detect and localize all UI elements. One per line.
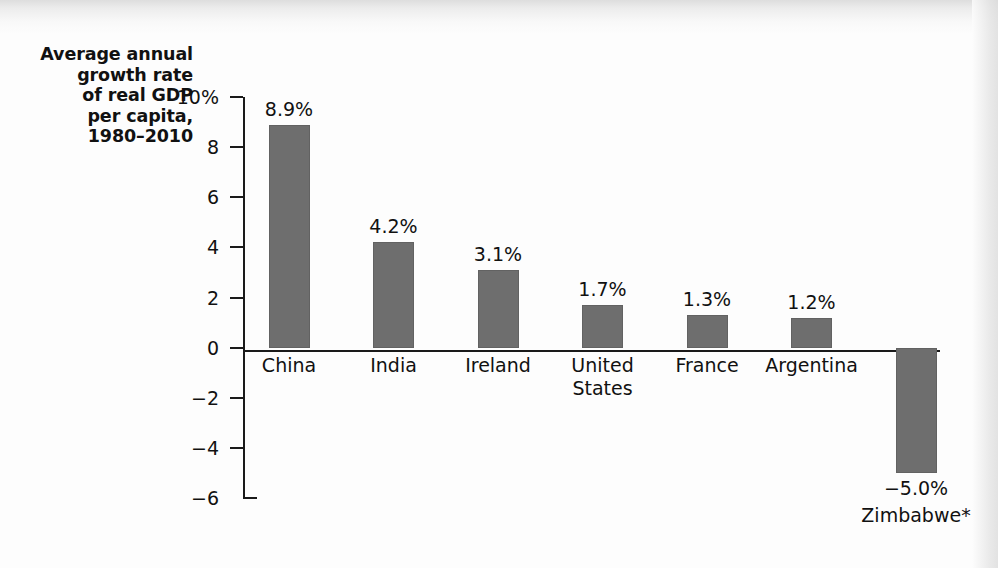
y-axis-tick — [230, 397, 243, 399]
bar-value-label: −5.0% — [856, 477, 976, 499]
bar-category-label: Zimbabwe* — [841, 504, 991, 527]
y-axis-line — [243, 97, 245, 498]
y-axis-title-line-2: growth rate — [8, 65, 193, 86]
bar-category-label-line: Argentina — [737, 354, 887, 377]
y-axis-tick-label: 10% — [149, 86, 219, 108]
plot-area: 10%86420−2−4−68.9%China4.2%India3.1%Irel… — [243, 97, 940, 498]
bar — [582, 305, 623, 348]
bar-category-label-line: Zimbabwe* — [841, 504, 991, 527]
y-axis-title-line-4: per capita, — [8, 106, 193, 127]
bar-value-label: 3.1% — [438, 243, 558, 265]
bar — [791, 318, 832, 348]
page-scan-edge-top — [0, 0, 998, 34]
y-axis-tick-label: 8 — [149, 136, 219, 158]
y-axis-tick-label: 2 — [149, 287, 219, 309]
chart-figure: Average annual growth rate of real GDP p… — [0, 0, 998, 568]
bar — [478, 270, 519, 348]
bar-category-label: Argentina — [737, 354, 887, 377]
y-axis-tick-label: 6 — [149, 186, 219, 208]
zero-baseline — [243, 350, 940, 352]
y-axis-tick — [230, 347, 243, 349]
y-axis-tick — [243, 497, 257, 499]
y-axis-tick-label: 0 — [149, 337, 219, 359]
bar — [687, 315, 728, 348]
bar-value-label: 4.2% — [334, 215, 454, 237]
bar — [373, 242, 414, 347]
y-axis-tick — [230, 196, 243, 198]
bar-value-label: 1.3% — [647, 288, 767, 310]
bar-value-label: 1.7% — [543, 278, 663, 300]
y-axis-tick-label: −4 — [149, 437, 219, 459]
bar-value-label: 1.2% — [752, 291, 872, 313]
bar — [269, 125, 310, 348]
y-axis-tick — [230, 447, 243, 449]
y-axis-tick — [230, 246, 243, 248]
y-axis-tick-label: −6 — [149, 487, 219, 509]
bar-category-label-line: States — [528, 377, 678, 400]
y-axis-tick-label: −2 — [149, 387, 219, 409]
y-axis-tick-label: 4 — [149, 236, 219, 258]
y-axis-tick — [230, 297, 243, 299]
bar — [896, 348, 937, 473]
y-axis-title-line-1: Average annual — [8, 44, 193, 65]
bar-value-label: 8.9% — [229, 98, 349, 120]
y-axis-tick — [230, 146, 243, 148]
